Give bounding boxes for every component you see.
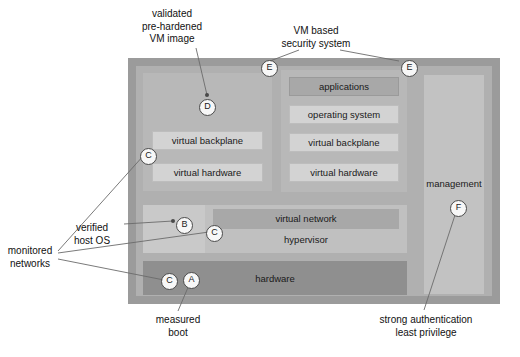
marker-b-host-os: B <box>176 217 193 234</box>
annotation-strong-authentication: strong authentication least privilege <box>356 314 496 339</box>
annotation-line: monitored <box>0 245 60 258</box>
annotation-line: least privilege <box>356 327 496 340</box>
vm-left-bar-virtual-hardware: virtual hardware <box>152 163 263 182</box>
marker-d-vm-left: D <box>199 99 216 116</box>
management-label: management <box>424 178 484 189</box>
annotation-line: validated <box>122 8 222 21</box>
annotation-validated-vm-image: validated pre-hardened VM image <box>122 8 222 46</box>
annotation-line: pre-hardened <box>122 21 222 34</box>
marker-c-hardware: C <box>161 273 178 290</box>
marker-e-right: E <box>401 60 418 77</box>
vm-right-bar-operating-system: operating system <box>289 105 399 124</box>
hypervisor-label: hypervisor <box>213 234 399 245</box>
marker-f-management: F <box>450 200 467 217</box>
annotation-line: VM image <box>122 33 222 46</box>
annotation-line: host OS <box>62 235 122 248</box>
anchor-dot-d <box>205 93 209 97</box>
virtual-network-label: virtual network <box>213 213 399 224</box>
marker-c-hypervisor: C <box>206 225 223 242</box>
vm-right-bar-virtual-hardware: virtual hardware <box>289 163 399 182</box>
annotation-line: strong authentication <box>356 314 496 327</box>
annotation-vm-based-security-system: VM based security system <box>261 25 371 50</box>
anchor-dot-b <box>171 219 175 223</box>
vm-right-bar-applications: applications <box>289 77 399 96</box>
marker-c-vm-left: C <box>140 148 157 165</box>
vm-left-bar-virtual-backplane: virtual backplane <box>152 131 263 150</box>
annotation-line: measured <box>128 314 228 327</box>
annotation-line: networks <box>0 258 60 271</box>
marker-e-left: E <box>261 60 278 77</box>
annotation-monitored-networks: monitored networks <box>0 245 60 270</box>
annotation-line: boot <box>128 327 228 340</box>
diagram-canvas: virtual backplane virtual hardware appli… <box>0 0 520 357</box>
annotation-line: security system <box>261 38 371 51</box>
annotation-line: VM based <box>261 25 371 38</box>
annotation-measured-boot: measured boot <box>128 314 228 339</box>
marker-a-hardware: A <box>183 272 200 289</box>
annotation-line: verified <box>62 222 122 235</box>
annotation-verified-host-os: verified host OS <box>62 222 122 247</box>
vm-right-bar-virtual-backplane: virtual backplane <box>289 133 399 152</box>
